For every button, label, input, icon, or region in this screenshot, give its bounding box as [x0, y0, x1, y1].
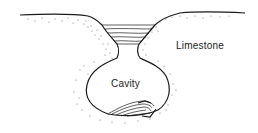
limestone-label: Limestone [176, 40, 224, 51]
cavity-label: Cavity [111, 78, 140, 89]
ground-surface [20, 14, 102, 25]
cavity-cross-section-diagram [0, 0, 258, 133]
ground-surface-right [155, 12, 245, 25]
